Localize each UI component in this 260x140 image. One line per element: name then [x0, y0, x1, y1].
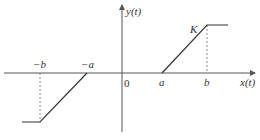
- lower-branch: [22, 73, 87, 122]
- tick-label-neg-b: −b: [33, 58, 46, 70]
- x-axis-label: x(t): [239, 76, 256, 89]
- function-diagram: y(t) x(t) 0 −b −a a b K: [0, 0, 260, 140]
- tick-label-b: b: [204, 76, 210, 88]
- origin-label: 0: [124, 77, 130, 89]
- level-label-k: K: [189, 23, 198, 35]
- tick-label-a: a: [159, 76, 165, 88]
- y-axis-label: y(t): [125, 5, 142, 18]
- tick-label-neg-a: −a: [81, 58, 94, 70]
